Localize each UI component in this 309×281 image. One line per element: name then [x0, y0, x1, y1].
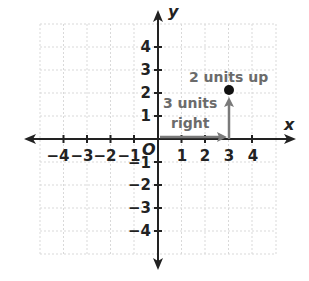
y-tick-label: 3: [141, 61, 151, 79]
y-tick-label: 4: [141, 38, 151, 56]
x-tick-label: 2: [200, 147, 210, 165]
y-tick-label: −4: [128, 222, 151, 240]
y-axis-label: y: [168, 2, 179, 21]
y-tick-label: −3: [128, 199, 151, 217]
x-tick-label: 4: [248, 147, 258, 165]
x-tick-label: −3: [70, 147, 93, 165]
x-tick-label: −2: [93, 147, 116, 165]
annotation-right-line1: 3 units: [163, 95, 217, 111]
x-tick-label: −4: [46, 147, 69, 165]
annotation-up: 2 units up: [189, 69, 268, 85]
x-axis-label: x: [283, 115, 295, 134]
coordinate-plane: y x O −4 −3 −2 −1 1 2 3 4 4 3 2 1 −1 −2 …: [0, 0, 309, 281]
x-tick-label: 3: [224, 147, 234, 165]
annotation-right-line2: right: [171, 115, 210, 131]
y-tick-label: −2: [128, 176, 151, 194]
y-tick-label: 1: [141, 107, 151, 125]
y-tick-label: −1: [128, 154, 151, 172]
x-tick-label: 1: [177, 147, 187, 165]
point-3-2: [224, 85, 234, 95]
y-tick-label: 2: [141, 84, 151, 102]
